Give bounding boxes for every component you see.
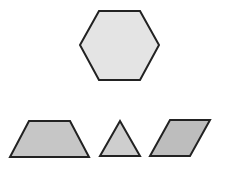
hexagon-shape bbox=[80, 11, 159, 80]
shapes-diagram bbox=[0, 0, 231, 170]
trapezoid-shape bbox=[10, 121, 89, 157]
triangle-shape bbox=[100, 121, 140, 156]
rhombus-shape bbox=[150, 120, 210, 156]
